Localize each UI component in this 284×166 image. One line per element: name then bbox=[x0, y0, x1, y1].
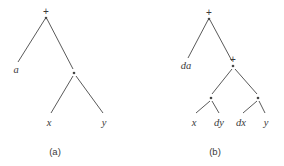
node-label-dx-b: dx bbox=[236, 117, 246, 128]
node-dot-root-a bbox=[45, 17, 48, 20]
node-label-plus-a: + bbox=[43, 6, 49, 17]
node-label-y-a: y bbox=[101, 117, 107, 128]
tree-b-group: + da + · · x dy dx y (b) bbox=[181, 7, 269, 157]
node-label-times-left-b: · bbox=[209, 92, 212, 103]
caption-a: (a) bbox=[49, 146, 61, 157]
node-label-da-b: da bbox=[181, 60, 192, 71]
node-label-x-b: x bbox=[191, 117, 197, 128]
edge-mul2-to-dx bbox=[243, 101, 257, 113]
node-label-a: a bbox=[13, 64, 18, 75]
node-label-dy-b: dy bbox=[214, 117, 224, 128]
node-label-y-b: y bbox=[263, 117, 269, 128]
edge-root-to-plus2 bbox=[210, 20, 232, 61]
edge-root-to-da bbox=[188, 20, 208, 58]
edge-root-to-mul bbox=[47, 19, 73, 69]
edge-plus2-to-mul1 bbox=[212, 69, 232, 94]
node-label-plus-root-b: + bbox=[206, 7, 212, 18]
edge-plus2-to-mul2 bbox=[235, 69, 257, 94]
tree-a-group: + a · x y (a) bbox=[13, 6, 106, 157]
tree-a-labels: + a · x y bbox=[13, 6, 106, 128]
node-label-times-a: · bbox=[72, 67, 75, 78]
edge-mul1-to-dy bbox=[212, 101, 219, 113]
caption-b: (b) bbox=[209, 146, 221, 157]
node-dot-plus2-b bbox=[232, 65, 235, 68]
edge-mul-to-y bbox=[76, 76, 103, 113]
tree-a-edges bbox=[18, 19, 103, 113]
edge-root-to-a bbox=[18, 19, 45, 62]
node-label-x-a: x bbox=[46, 117, 52, 128]
node-label-plus-inner-b: + bbox=[230, 54, 236, 65]
edge-mul2-to-y bbox=[259, 101, 265, 113]
edge-mul-to-x bbox=[51, 76, 73, 113]
figure-container: + a · x y (a) bbox=[0, 0, 284, 166]
edge-mul1-to-x bbox=[196, 101, 210, 113]
tree-b-labels: + da + · · x dy dx y bbox=[181, 7, 269, 128]
node-dot-root-b bbox=[208, 18, 211, 21]
syntax-tree-diagram: + a · x y (a) bbox=[0, 0, 284, 166]
tree-b-edges bbox=[188, 20, 265, 113]
node-label-times-right-b: · bbox=[256, 92, 259, 103]
